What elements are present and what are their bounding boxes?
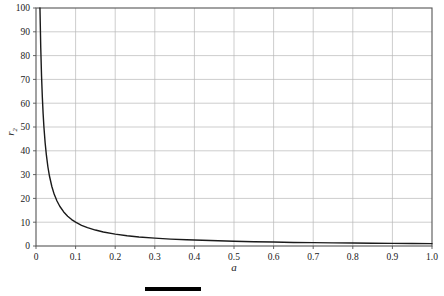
y-axis-tick-label: 20 bbox=[21, 194, 31, 204]
y-axis-tick-label: 50 bbox=[21, 122, 31, 132]
x-axis-tick-label: 0.8 bbox=[347, 252, 359, 262]
footer-rule bbox=[145, 287, 201, 291]
y-axis-tick-label: 60 bbox=[21, 99, 31, 109]
x-axis-tick-label: 0.7 bbox=[307, 252, 319, 262]
y-axis-tick-label: 100 bbox=[16, 3, 31, 13]
x-axis-tick-label: 0.9 bbox=[386, 252, 398, 262]
chart-figure: 0102030405060708090100 00.10.20.30.40.50… bbox=[0, 0, 444, 296]
x-axis-tick-label: 0.1 bbox=[70, 252, 82, 262]
x-axis-tick-label: 1.0 bbox=[426, 252, 438, 262]
y-axis-tick-label: 10 bbox=[21, 218, 31, 228]
x-axis-tick-label: 0 bbox=[34, 252, 39, 262]
x-axis-tick-label: 0.4 bbox=[188, 252, 200, 262]
y-axis-tick-label: 30 bbox=[21, 170, 31, 180]
y-axis-tick-label: 90 bbox=[21, 27, 31, 37]
x-axis-tick-label: 0.3 bbox=[149, 252, 161, 262]
y-axis-tick-label: 70 bbox=[21, 75, 31, 85]
x-axis-label-text: a bbox=[231, 261, 237, 273]
y-axis-tick-label: 0 bbox=[25, 241, 30, 251]
y-axis-tick-label: 80 bbox=[21, 51, 31, 61]
x-axis-tick-label: 0.2 bbox=[109, 252, 121, 262]
y-axis-tick-label: 40 bbox=[21, 146, 31, 156]
figure-background bbox=[0, 0, 444, 296]
x-axis-tick-label: 0.6 bbox=[268, 252, 280, 262]
